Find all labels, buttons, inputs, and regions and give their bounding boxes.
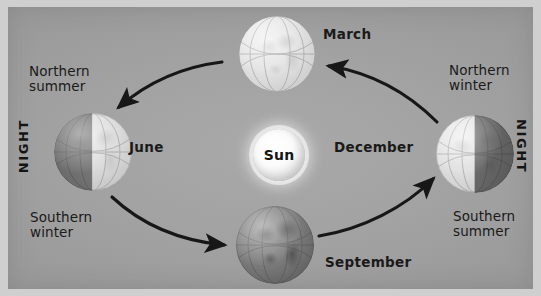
globe-september: [236, 206, 314, 284]
sun-label: Sun: [264, 147, 295, 163]
seasons-diagram: Sun: [0, 0, 541, 296]
label-southern-winter: Southern winter: [30, 210, 92, 240]
sun: Sun: [253, 129, 305, 181]
label-march: March: [323, 27, 371, 42]
arrow-december-to-march: [329, 66, 437, 122]
label-northern-winter: Northern winter: [449, 63, 510, 93]
label-night-right: NIGHT: [514, 119, 529, 173]
globe-december: [436, 115, 514, 193]
label-june: June: [129, 140, 164, 155]
globe-gloss: [54, 113, 132, 191]
label-night-left: NIGHT: [16, 119, 31, 173]
globe-gloss: [436, 115, 514, 193]
globe-gloss: [236, 206, 314, 284]
label-december: December: [334, 140, 413, 155]
arrow-june-to-september: [112, 197, 224, 245]
arrow-september-to-december: [319, 179, 433, 236]
label-september: September: [325, 255, 411, 270]
label-northern-summer: Northern summer: [29, 64, 90, 94]
diagram-stage: Sun: [8, 7, 533, 289]
globe-march: [239, 16, 315, 92]
globe-june: [54, 113, 132, 191]
globe-gloss: [239, 16, 315, 92]
arrow-march-to-june: [119, 62, 222, 107]
label-southern-summer: Southern summer: [453, 209, 515, 239]
